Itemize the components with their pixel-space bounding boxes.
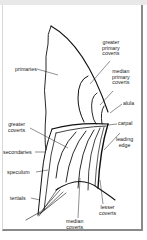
label-leading-edge: leading edge [116,137,133,148]
label-carpal: carpal [118,121,132,127]
leading-edge-line [98,124,108,188]
label-alula: alula [123,101,134,107]
label-speculum: speculum [7,170,30,176]
primaries-outline [51,26,108,112]
label-greater-coverts: greater coverts [8,122,25,133]
label-lesser-coverts: lesser coverts [99,205,116,216]
label-greater-primary-coverts: greater primary coverts [102,40,120,57]
label-median-coverts: median coverts [66,219,83,230]
label-secondaries: secondaries [3,150,32,156]
label-tertials: tertials [10,196,26,202]
label-primaries: primaries [15,67,37,73]
label-median-primary-coverts: median primary coverts [112,69,130,86]
